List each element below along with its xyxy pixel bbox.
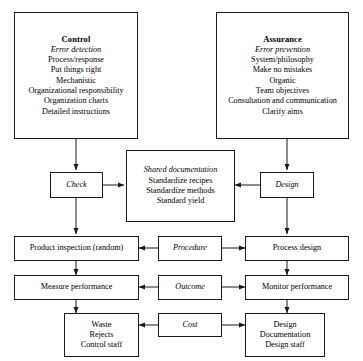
assurance-box: Assurance Error prevention System/philos… — [216, 12, 349, 139]
procedure-box: Procedure — [158, 236, 222, 261]
process-design-box: Process design — [245, 236, 349, 261]
waste-box-item: Waste — [92, 320, 112, 330]
monitor-performance-label: Monitor performance — [262, 282, 332, 292]
product-inspection-box: Product inspection (random) — [14, 236, 139, 261]
cost-box: Cost — [158, 313, 222, 337]
check-box-label: Check — [66, 180, 86, 190]
control-box-item: Organization charts — [44, 96, 108, 106]
assurance-box-subtitle: Error prevention — [255, 45, 310, 55]
outcome-label: Outcome — [175, 282, 205, 292]
assurance-box-item: Team objectives — [256, 86, 309, 96]
shared-documentation-item: Standardize recipes — [149, 176, 213, 186]
assurance-box-item: Make no mistakes — [253, 65, 313, 75]
assurance-box-item: Organic — [269, 76, 295, 86]
control-box-item: Detailed instructions — [42, 107, 110, 117]
control-box-item: Put things right — [51, 65, 102, 75]
design-outputs-box: Design Documentation Design staff — [245, 313, 325, 357]
procedure-label: Procedure — [173, 243, 207, 253]
product-inspection-label: Product inspection (random) — [30, 243, 124, 253]
design-outputs-item: Design staff — [265, 340, 305, 350]
shared-documentation-box: Shared documentation Standardize recipes… — [126, 150, 235, 222]
control-box-subtitle: Error detection — [51, 45, 101, 55]
control-box-item: Process/response — [48, 55, 104, 65]
flow-diagram: Control Error detection Process/response… — [0, 0, 363, 361]
assurance-box-item: System/philosophy — [251, 55, 314, 65]
measure-performance-label: Measure performance — [41, 282, 113, 292]
design-outputs-item: Design — [273, 320, 296, 330]
design-box: Design — [260, 172, 314, 198]
process-design-label: Process design — [273, 243, 321, 253]
cost-label: Cost — [182, 320, 197, 330]
design-outputs-item: Documentation — [260, 330, 310, 340]
design-box-label: Design — [275, 180, 298, 190]
shared-documentation-item: Standardize methods — [146, 186, 214, 196]
check-box: Check — [50, 172, 103, 198]
waste-box-item: Rejects — [89, 330, 113, 340]
shared-documentation-subtitle: Shared documentation — [144, 165, 218, 175]
waste-box-item: Control staff — [81, 340, 122, 350]
control-box-item: Mechanistic — [56, 76, 96, 86]
measure-performance-box: Measure performance — [14, 275, 139, 300]
control-box-item: Organizational responsibility — [28, 86, 123, 96]
control-box: Control Error detection Process/response… — [14, 12, 138, 139]
outcome-box: Outcome — [158, 275, 222, 300]
waste-box: Waste Rejects Control staff — [64, 313, 139, 357]
shared-documentation-item: Standard yield — [157, 196, 205, 206]
monitor-performance-box: Monitor performance — [245, 275, 349, 300]
assurance-box-item: Clarify aims — [262, 107, 303, 117]
assurance-box-heading: Assurance — [263, 34, 302, 45]
assurance-box-item: Consultation and communication — [228, 96, 337, 106]
control-box-heading: Control — [62, 34, 91, 45]
